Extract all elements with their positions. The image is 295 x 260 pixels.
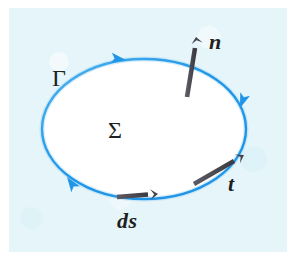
- label-sigma: Σ: [108, 118, 122, 142]
- diagram-vector-canvas: [0, 0, 295, 260]
- figure-root: Γ Σ n t ds: [0, 0, 295, 260]
- label-tangent-vector: t: [228, 173, 234, 195]
- label-normal-vector: n: [209, 31, 221, 53]
- label-gamma: Γ: [52, 66, 66, 90]
- label-line-element: ds: [117, 210, 138, 232]
